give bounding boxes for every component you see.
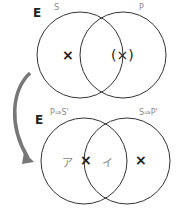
top-label-s: S [54,3,59,12]
diagram-canvas [0,0,176,211]
bottom-mark-right: × [135,152,147,168]
bottom-label-right: S⇒P' [139,108,158,117]
top-mark-right: (×) [111,47,134,63]
bottom-mark-center: × [80,152,92,168]
region-a-label: ア [62,154,73,170]
top-mark-left: × [62,47,74,63]
bottom-universe-label: E [35,113,43,127]
bottom-label-left: P⇒S' [50,108,69,117]
top-universe-label: E [33,6,41,20]
arrow-head-icon [22,152,34,164]
curved-arrow-icon [15,73,30,158]
region-b-label: イ [102,154,113,170]
top-label-p: P [139,3,144,12]
